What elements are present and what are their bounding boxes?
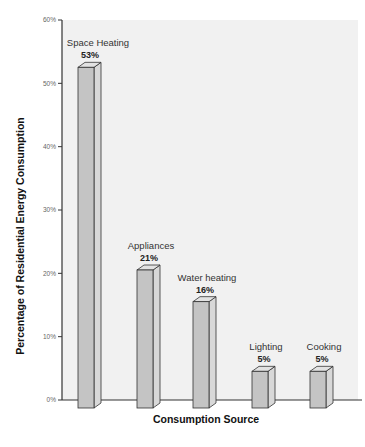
- y-tick-label: 30%: [43, 206, 56, 213]
- bar-value-label: 16%: [196, 285, 214, 295]
- bar-category-label: Space Heating: [67, 37, 129, 48]
- bar-value-label: 5%: [257, 354, 270, 364]
- bar-value-label: 21%: [140, 253, 158, 263]
- y-axis-title: Percentage of Residential Energy Consump…: [14, 117, 26, 354]
- bar-category-label: Cooking: [307, 341, 342, 352]
- bar-category-label: Appliances: [128, 240, 175, 251]
- x-axis-title: Consumption Source: [153, 413, 259, 425]
- y-tick-label: 0%: [47, 396, 57, 403]
- bar-value-label: 53%: [81, 50, 99, 60]
- bar-value-label: 5%: [315, 354, 328, 364]
- y-tick-label: 20%: [43, 270, 56, 277]
- y-tick-label: 50%: [43, 80, 56, 87]
- y-tick-label: 40%: [43, 143, 56, 150]
- y-axis: 0%10%20%30%40%50%60%: [43, 16, 62, 403]
- bar-chart: 0%10%20%30%40%50%60% 53%Space Heating21%…: [0, 0, 365, 447]
- y-tick-label: 60%: [43, 16, 56, 23]
- y-tick-label: 10%: [43, 333, 56, 340]
- bar-category-label: Water heating: [178, 272, 237, 283]
- bar-category-label: Lighting: [249, 341, 282, 352]
